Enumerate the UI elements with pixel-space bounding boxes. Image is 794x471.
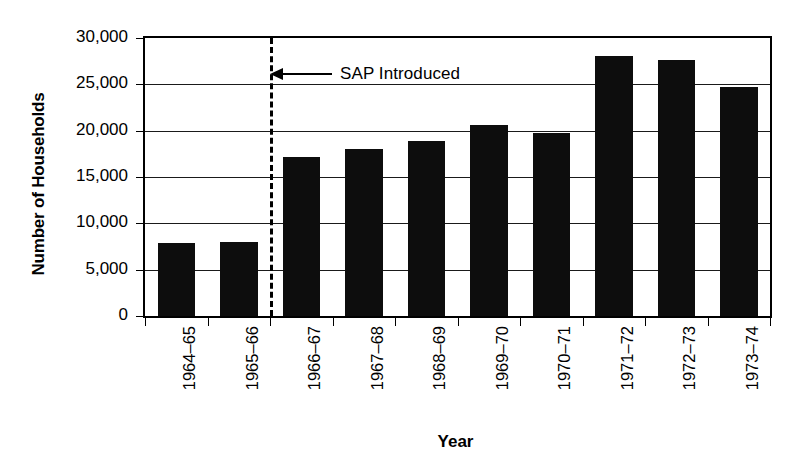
x-tick-label: 1970–71 (556, 326, 573, 436)
y-axis-tick (136, 131, 145, 132)
y-tick-label: 5,000 (85, 259, 128, 276)
x-axis-tick (395, 316, 396, 326)
x-axis-tick (520, 316, 521, 326)
bar (533, 133, 571, 316)
bar (595, 56, 633, 316)
x-axis-tick-labels: 1964–651965–661966–671967–681968–691969–… (143, 326, 768, 436)
x-axis-tick (333, 316, 334, 326)
x-axis-title: Year (143, 432, 768, 452)
y-axis-tick (136, 84, 145, 85)
x-tick-label: 1967–68 (369, 326, 386, 436)
bar (408, 141, 446, 316)
y-axis-tick (136, 223, 145, 224)
bar (283, 157, 321, 316)
x-axis-tick (583, 316, 584, 326)
x-axis-tick (645, 316, 646, 326)
y-tick-label: 25,000 (76, 74, 128, 91)
bar (658, 60, 696, 316)
plot-area: SAP Introduced (143, 36, 772, 318)
y-axis-tick-labels: 0 5,000 10,000 15,000 20,000 25,000 30,0… (0, 0, 138, 471)
sap-annotation: SAP Introduced (270, 64, 460, 84)
x-tick-label: 1968–69 (431, 326, 448, 436)
x-axis-tick (145, 316, 146, 326)
x-axis-tick (708, 316, 709, 326)
x-tick-label: 1964–65 (181, 326, 198, 436)
y-axis-tick (136, 316, 145, 317)
y-tick-label: 10,000 (76, 213, 128, 230)
y-tick-label: 20,000 (76, 120, 128, 137)
x-tick-label: 1973–74 (744, 326, 761, 436)
bar (720, 87, 758, 316)
bar (345, 149, 383, 316)
y-tick-label: 15,000 (76, 167, 128, 184)
y-axis-tick (136, 177, 145, 178)
bar (158, 243, 196, 316)
x-tick-label: 1972–73 (681, 326, 698, 436)
bar (220, 242, 258, 316)
y-axis-tick (136, 270, 145, 271)
x-axis-tick (770, 316, 771, 326)
x-tick-label: 1966–67 (306, 326, 323, 436)
chart-figure: Number of Households 0 5,000 10,000 15,0… (0, 0, 794, 471)
y-tick-label: 30,000 (76, 28, 128, 45)
y-tick-label: 0 (119, 306, 128, 323)
x-axis-tick (208, 316, 209, 326)
sap-annotation-label: SAP Introduced (332, 64, 460, 84)
x-tick-label: 1971–72 (619, 326, 636, 436)
plot-inner: SAP Introduced (145, 38, 770, 316)
x-axis-tick (458, 316, 459, 326)
sap-introduced-marker-line (270, 38, 273, 316)
y-axis-tick (136, 38, 145, 39)
left-arrow-icon (270, 68, 332, 80)
x-tick-label: 1965–66 (244, 326, 261, 436)
bar (470, 125, 508, 316)
x-axis-tick (270, 316, 271, 326)
x-tick-label: 1969–70 (494, 326, 511, 436)
